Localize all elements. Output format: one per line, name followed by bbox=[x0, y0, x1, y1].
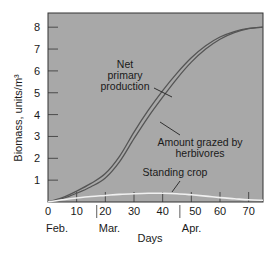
x-tick-label: 30 bbox=[128, 205, 140, 217]
y-tick-label: 4 bbox=[34, 109, 40, 121]
y-tick-label: 5 bbox=[34, 87, 40, 99]
y-tick-label: 7 bbox=[34, 43, 40, 55]
x-tick-label: 20 bbox=[99, 205, 111, 217]
annotation-text: Standing crop bbox=[143, 166, 208, 178]
y-tick-label: 1 bbox=[34, 174, 40, 186]
y-tick-label: 3 bbox=[34, 130, 40, 142]
x-tick-label: 70 bbox=[243, 205, 255, 217]
month-label: Apr. bbox=[182, 222, 202, 234]
x-tick-label: 60 bbox=[214, 205, 226, 217]
y-axis-label: Biomass, units/m³ bbox=[12, 74, 24, 162]
x-tick-label: 40 bbox=[157, 205, 169, 217]
y-tick-label: 8 bbox=[34, 21, 40, 33]
month-labels: Feb.Mar.Apr. bbox=[46, 205, 201, 234]
month-label: Mar. bbox=[99, 222, 120, 234]
x-tick-label: 0 bbox=[45, 205, 51, 217]
biomass-chart: 12345678 010203040506070 Feb.Mar.Apr. Ne… bbox=[0, 0, 277, 259]
annotation-text: herbivores bbox=[175, 147, 224, 159]
x-axis-label: Days bbox=[137, 232, 163, 244]
y-tick-label: 6 bbox=[34, 65, 40, 77]
x-tick-label: 50 bbox=[189, 205, 201, 217]
y-tick-label: 2 bbox=[34, 152, 40, 164]
month-label: Feb. bbox=[46, 222, 68, 234]
x-tick-label: 10 bbox=[71, 205, 83, 217]
annotation-text: production bbox=[100, 80, 149, 92]
